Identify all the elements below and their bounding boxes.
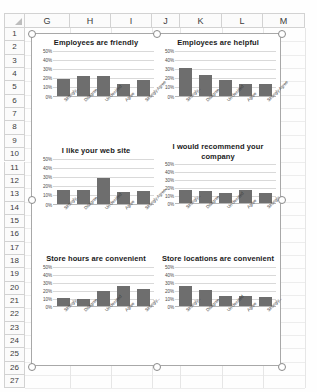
row-header-26[interactable]: 26 [4,362,25,375]
row-header-4[interactable]: 4 [4,68,25,81]
plot-canvas [53,51,154,97]
spreadsheet-canvas[interactable]: GHIJKLM123456789101112131415161718192021… [0,0,317,392]
y-axis-tick: 0% [46,94,52,99]
row-header-1[interactable]: 1 [4,28,25,41]
column-header-I[interactable]: I [111,13,152,28]
column-header-G[interactable]: G [25,13,70,28]
y-axis-tick: 10% [43,193,52,198]
chart-title: I like your web site [36,146,156,156]
y-axis-tick: 0% [168,94,174,99]
resize-handle-middle-right[interactable] [278,196,286,204]
row-header-3[interactable]: 3 [4,55,25,68]
bar-series [175,164,276,203]
x-axis: Strongly...DisagreeUn-decidedAgreeStrong… [53,307,154,335]
y-axis-tick: 50% [43,264,52,269]
y-axis-tick: 50% [165,264,174,269]
row-header-27[interactable]: 27 [4,375,25,388]
y-axis-tick: 50% [165,162,174,167]
plot-canvas [175,164,276,204]
y-axis-tick: 50% [43,156,52,161]
row-header-12[interactable]: 12 [4,175,25,188]
row-header-22[interactable]: 22 [4,308,25,321]
x-axis: Strongly...DisagreeUn-decidedAgreeStrong… [175,204,276,232]
resize-handle-top-left[interactable] [28,30,36,38]
chart-2[interactable]: Employees are helpful0%10%20%30%40%50%St… [158,38,278,146]
resize-handle-middle-left[interactable] [28,196,36,204]
chart-6[interactable]: Store locations are convenient0%10%20%30… [158,254,278,366]
row-header-7[interactable]: 7 [4,108,25,121]
row-header-2[interactable]: 2 [4,41,25,54]
y-axis-tick: 0% [46,304,52,309]
column-header-H[interactable]: H [70,13,111,28]
row-header-16[interactable]: 16 [4,228,25,241]
plot-area: 0%10%20%30%40%50%Strongly...DisagreeUn-d… [158,51,278,97]
column-header-L[interactable]: L [222,13,263,28]
chart-group-selection[interactable]: Employees are friendly0%10%20%30%40%50%S… [31,33,281,366]
resize-handle-bottom-left[interactable] [28,363,36,371]
y-axis-tick: 20% [165,288,174,293]
row-header-5[interactable]: 5 [4,81,25,94]
column-header-M[interactable]: M [263,13,305,28]
plot-canvas [175,51,276,97]
y-axis-tick: 20% [43,288,52,293]
y-axis-tick: 20% [165,186,174,191]
row-header-24[interactable]: 24 [4,335,25,348]
y-axis-tick: 30% [165,280,174,285]
y-axis-tick: 30% [43,280,52,285]
resize-handle-top-right[interactable] [278,30,286,38]
grid-column-line [305,28,306,388]
y-axis-tick: 50% [165,48,174,53]
y-axis-tick: 30% [165,178,174,183]
y-axis-tick: 40% [165,57,174,62]
bar [97,178,110,204]
row-header-13[interactable]: 13 [4,188,25,201]
chart-title: I would recommend your company [158,142,278,161]
chart-title: Store hours are convenient [36,254,156,264]
plot-canvas [175,267,276,307]
row-header-8[interactable]: 8 [4,121,25,134]
row-header-6[interactable]: 6 [4,95,25,108]
plot-canvas [53,267,154,307]
row-header-14[interactable]: 14 [4,202,25,215]
x-axis: Strongly...DisagreeUn-decidedAgreeStrong… [175,97,276,125]
resize-handle-top-center[interactable] [153,30,161,38]
row-header-9[interactable]: 9 [4,135,25,148]
bar-series [53,267,154,306]
select-all-triangle-icon [15,18,22,25]
y-axis-tick: 10% [165,85,174,90]
column-header-J[interactable]: J [152,13,180,28]
plot-area: 0%10%20%30%40%50%Strongly...DisagreeUn-d… [158,267,278,307]
row-header-23[interactable]: 23 [4,322,25,335]
select-all-button[interactable] [4,13,25,28]
y-axis-tick: 0% [46,202,52,207]
y-axis-tick: 40% [43,165,52,170]
column-header-K[interactable]: K [180,13,222,28]
y-axis-tick: 40% [165,272,174,277]
y-axis-tick: 50% [43,48,52,53]
bar [179,68,192,96]
row-header-10[interactable]: 10 [4,148,25,161]
row-header-20[interactable]: 20 [4,282,25,295]
y-axis: 0%10%20%30%40%50% [36,267,53,307]
y-axis-tick: 20% [165,76,174,81]
row-header-11[interactable]: 11 [4,162,25,175]
plot-canvas [53,159,154,205]
chart-3[interactable]: I like your web site0%10%20%30%40%50%Str… [36,146,156,254]
y-axis-tick: 20% [43,76,52,81]
row-header-21[interactable]: 21 [4,295,25,308]
chart-5[interactable]: Store hours are convenient0%10%20%30%40%… [36,254,156,366]
chart-1[interactable]: Employees are friendly0%10%20%30%40%50%S… [36,38,156,146]
row-header-18[interactable]: 18 [4,255,25,268]
y-axis-tick: 10% [165,296,174,301]
row-header-17[interactable]: 17 [4,242,25,255]
y-axis: 0%10%20%30%40%50% [158,164,175,204]
row-header-15[interactable]: 15 [4,215,25,228]
plot-area: 0%10%20%30%40%50%Strongly...DisagreeUn-d… [36,267,156,307]
bar-series [53,51,154,96]
y-axis-tick: 10% [43,85,52,90]
row-header-19[interactable]: 19 [4,268,25,281]
resize-handle-bottom-right[interactable] [278,363,286,371]
row-header-25[interactable]: 25 [4,348,25,361]
chart-4[interactable]: I would recommend your company0%10%20%30… [158,142,278,254]
resize-handle-bottom-center[interactable] [153,363,161,371]
